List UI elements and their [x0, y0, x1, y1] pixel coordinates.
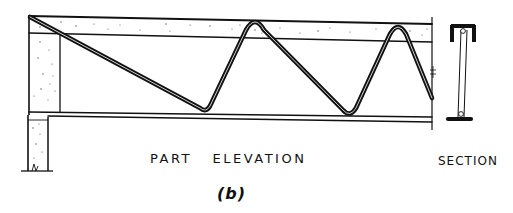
- part-elevation-label: PART ELEVATION: [150, 151, 306, 166]
- top-chord: [29, 16, 432, 42]
- bottom-chord: [29, 112, 432, 122]
- open-web-joist-drawing: [0, 0, 513, 213]
- support-stipple: [32, 123, 42, 158]
- support-post: [21, 115, 53, 171]
- section-view: [448, 25, 475, 119]
- web-bar: [30, 17, 432, 114]
- break-line: [430, 17, 436, 130]
- figure-caption: (b): [217, 184, 246, 203]
- section-label: SECTION: [438, 154, 498, 168]
- end-block-stipple: [33, 41, 55, 100]
